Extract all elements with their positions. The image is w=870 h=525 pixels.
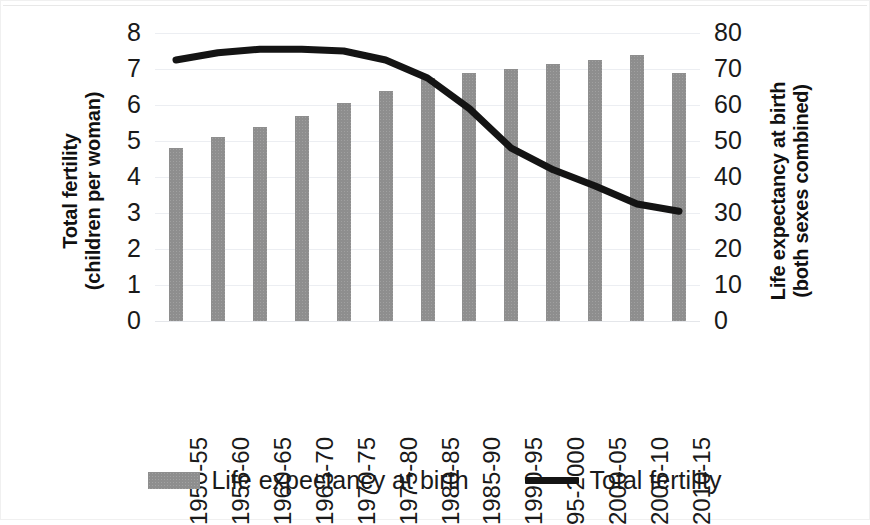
right-tick-label: 50 [714, 128, 754, 153]
left-axis-title-line2: (children per woman) [82, 51, 105, 331]
right-tick-label: 10 [714, 272, 754, 297]
right-axis-title-line1: Life expectancy at birth [767, 51, 790, 331]
line-series-total-fertility [155, 33, 700, 321]
left-tick-label: 0 [107, 308, 141, 333]
right-tick-label: 20 [714, 236, 754, 261]
plot-area [155, 33, 700, 321]
legend-item-total-fertility: Total fertility [525, 467, 722, 493]
left-tick-label: 7 [107, 56, 141, 81]
legend-bar-swatch-icon [148, 472, 200, 489]
right-axis-title-line2: (both sexes combined) [790, 51, 813, 331]
left-tick-label: 3 [107, 200, 141, 225]
left-tick-label: 5 [107, 128, 141, 153]
right-tick-label: 40 [714, 164, 754, 189]
right-tick-label: 0 [714, 308, 754, 333]
legend-label-total-fertility: Total fertility [590, 467, 722, 493]
right-tick-label: 60 [714, 92, 754, 117]
left-tick-label: 1 [107, 272, 141, 297]
left-axis-title-line1: Total fertility [59, 51, 82, 331]
right-tick-label: 80 [714, 20, 754, 45]
left-tick-label: 2 [107, 236, 141, 261]
left-axis-title: Total fertility (children per woman) [59, 51, 105, 331]
right-tick-label: 30 [714, 200, 754, 225]
chart-legend: Life expectancy at birth Total fertility [0, 458, 870, 502]
left-tick-label: 6 [107, 92, 141, 117]
right-tick-label: 70 [714, 56, 754, 81]
legend-label-life-expectancy: Life expectancy at birth [211, 467, 468, 493]
left-tick-label: 4 [107, 164, 141, 189]
left-tick-label: 8 [107, 20, 141, 45]
x-axis-category-labels: 1950-551955-601960-651965-701970-751975-… [155, 325, 700, 443]
gridline [155, 321, 700, 322]
legend-item-life-expectancy: Life expectancy at birth [148, 467, 468, 493]
legend-line-swatch-icon [525, 477, 579, 484]
right-axis-title: Life expectancy at birth (both sexes com… [767, 51, 813, 331]
